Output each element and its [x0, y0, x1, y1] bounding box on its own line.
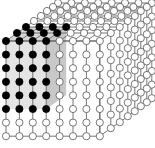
lattice-node — [69, 65, 76, 72]
lattice-node — [43, 133, 50, 140]
lattice-node — [69, 78, 76, 85]
lattice-node — [124, 99, 131, 106]
lattice-node — [107, 29, 114, 36]
lattice-node — [29, 119, 36, 126]
highlighted-node — [43, 105, 50, 112]
lattice-node — [83, 105, 90, 112]
lattice-node — [116, 64, 123, 71]
lattice-node — [16, 119, 23, 126]
lattice-node — [131, 53, 138, 60]
lattice-node — [57, 17, 64, 24]
highlighted-node — [27, 29, 34, 36]
lattice-node — [137, 21, 144, 28]
lattice-node — [96, 133, 103, 140]
lattice-node — [137, 7, 144, 14]
lattice-node — [116, 119, 123, 126]
highlighted-node — [43, 37, 50, 44]
lattice-node — [124, 31, 131, 38]
highlighted-node — [16, 92, 23, 99]
lattice-node — [67, 29, 74, 36]
lattice-node — [124, 113, 131, 120]
lattice-node — [131, 108, 138, 115]
lattice-node — [116, 91, 123, 98]
highlighted-node — [16, 65, 23, 72]
highlighted-node — [29, 37, 36, 44]
lattice-node — [124, 72, 131, 79]
highlighted-node — [16, 37, 23, 44]
lattice-node — [104, 12, 111, 19]
lattice-node — [96, 51, 103, 58]
highlighted-node — [54, 29, 61, 36]
highlighted-node — [29, 78, 36, 85]
slab-front — [6, 41, 46, 109]
highlighted-node — [43, 78, 50, 85]
lattice-node — [78, 12, 85, 19]
lattice-node — [69, 37, 76, 44]
lattice-node — [116, 105, 123, 112]
lattice-node — [91, 12, 98, 19]
highlighted-node — [43, 92, 50, 99]
lattice-node — [29, 133, 36, 140]
lattice-node — [107, 97, 114, 104]
lattice-node — [97, 7, 104, 14]
lattice-node — [69, 133, 76, 140]
lattice-node — [118, 12, 125, 19]
highlighted-node — [29, 51, 36, 58]
lattice-node — [107, 125, 114, 132]
lattice-node — [124, 85, 131, 92]
lattice-node — [71, 17, 78, 24]
lattice-node — [69, 119, 76, 126]
highlighted-node — [13, 29, 20, 36]
lattice-node — [56, 133, 63, 140]
lattice-node — [96, 92, 103, 99]
lattice-node — [43, 119, 50, 126]
lattice-node — [96, 37, 103, 44]
highlighted-node — [16, 78, 23, 85]
lattice-node — [83, 51, 90, 58]
lattice-node — [131, 94, 138, 101]
highlighted-node — [43, 51, 50, 58]
lattice-node — [51, 12, 58, 19]
lattice-node — [56, 78, 63, 85]
lattice-node — [96, 78, 103, 85]
lattice-node — [124, 58, 131, 65]
lattice-node — [96, 105, 103, 112]
highlighted-node — [29, 92, 36, 99]
lattice-node — [107, 111, 114, 118]
highlighted-node — [2, 105, 9, 112]
lattice-node — [83, 78, 90, 85]
lattice-node — [56, 37, 63, 44]
lattice-node — [70, 7, 77, 14]
lattice-node — [2, 133, 9, 140]
lattice-node — [137, 103, 144, 110]
lattice-node — [83, 65, 90, 72]
lattice-node — [56, 51, 63, 58]
lattice-node — [131, 26, 138, 33]
lattice-node — [137, 48, 144, 55]
lattice-cube-diagram — [0, 0, 155, 148]
lattice-node — [124, 17, 131, 24]
lattice-node — [96, 65, 103, 72]
highlighted-node — [29, 105, 36, 112]
lattice-node — [69, 92, 76, 99]
lattice-node — [116, 78, 123, 85]
lattice-node — [116, 51, 123, 58]
lattice-node — [30, 17, 37, 24]
highlighted-node — [2, 92, 9, 99]
lattice-node — [56, 105, 63, 112]
lattice-node — [94, 29, 101, 36]
lattice-node — [16, 133, 23, 140]
lattice-node — [97, 17, 104, 24]
lattice-node — [56, 119, 63, 126]
lattice-node — [57, 7, 64, 14]
lattice-node — [69, 105, 76, 112]
highlighted-node — [29, 65, 36, 72]
lattice-node — [84, 17, 91, 24]
lattice-node — [96, 119, 103, 126]
lattice-node — [83, 92, 90, 99]
lattice-node — [107, 57, 114, 64]
lattice-node — [107, 43, 114, 50]
lattice-node — [107, 70, 114, 77]
lattice-node — [37, 12, 44, 19]
lattice-node — [111, 17, 118, 24]
